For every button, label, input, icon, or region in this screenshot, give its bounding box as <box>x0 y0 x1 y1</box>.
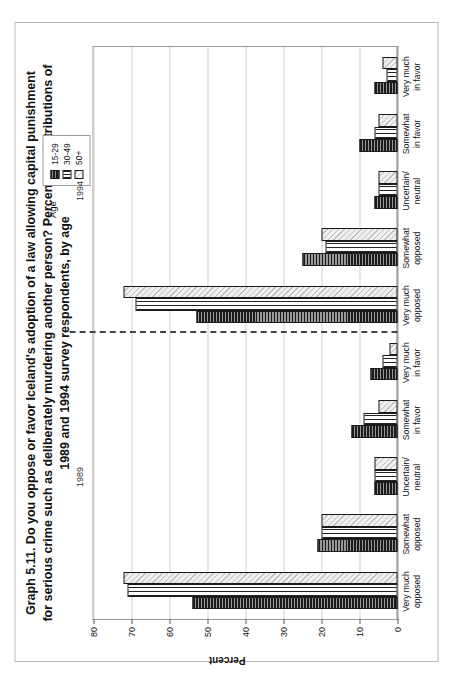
panel-year-label: 1989 <box>74 467 84 487</box>
bar-15-29 <box>196 311 397 324</box>
bar-30-49 <box>378 184 397 197</box>
bar-50plus <box>374 457 397 470</box>
bar-15-29 <box>370 368 397 381</box>
bar-group <box>93 457 397 495</box>
y-axis-tick <box>245 619 246 624</box>
x-axis-label: Uncertain/ neutral <box>400 162 421 219</box>
title-line-3: 1989 and 1994 survey respondents, by age <box>56 28 73 658</box>
bar-15-29 <box>374 196 397 209</box>
bar-30-49 <box>386 69 397 82</box>
y-axis-tick <box>397 619 398 624</box>
y-axis-tick <box>283 619 284 624</box>
bar-15-29 <box>374 82 397 95</box>
bar-50plus <box>378 114 397 127</box>
bar-50plus <box>321 228 397 241</box>
x-axis-label: Somewhat in favor <box>400 105 421 162</box>
legend-swatch-icon <box>62 170 71 179</box>
panel-year-label: 1994 <box>74 181 84 201</box>
bar-30-49 <box>135 298 397 311</box>
x-axis-label: Very much in favor <box>400 334 421 391</box>
bar-group <box>93 514 397 552</box>
bar-30-49 <box>321 527 397 540</box>
bar-50plus <box>378 171 397 184</box>
y-axis-tick <box>207 619 208 624</box>
bar-group <box>93 400 397 438</box>
plot-area: 01020304050607080 <box>92 46 398 620</box>
x-axis-label: Somewhat in favor <box>400 391 421 448</box>
legend-swatch-icon <box>74 170 83 179</box>
y-axis-tick-label: 50 <box>202 627 212 637</box>
bar-15-29 <box>374 482 397 495</box>
y-axis-tick-label: 20 <box>316 627 326 637</box>
bar-30-49 <box>325 241 397 254</box>
bar-50plus <box>378 400 397 413</box>
bar-30-49 <box>374 127 397 140</box>
figure: Graph 5.11. Do you oppose or favor Icela… <box>0 0 455 684</box>
title-line-2: for serious crime such as deliberately m… <box>39 28 56 658</box>
title-line-1: Graph 5.11. Do you oppose or favor Icela… <box>22 28 39 658</box>
bar-50plus <box>321 514 397 527</box>
y-axis-tick-label: 10 <box>354 627 364 637</box>
y-axis-tick-label: 70 <box>126 627 136 637</box>
y-axis-tick <box>131 619 132 624</box>
x-axis-label: Uncertain/ neutral <box>400 448 421 505</box>
bar-15-29 <box>351 425 397 438</box>
bar-group <box>93 171 397 209</box>
legend-title: Age <box>46 201 57 218</box>
y-axis-tick-label: 0 <box>392 627 402 632</box>
x-axis-label: Somewhat opposed <box>400 506 421 563</box>
legend: 15-2930-4950+ <box>42 135 90 186</box>
y-axis-tick-label: 40 <box>240 627 250 637</box>
panel-divider <box>69 331 397 333</box>
bar-50plus <box>123 286 397 299</box>
legend-label: 15-29 <box>49 143 59 165</box>
y-axis-tick-label: 80 <box>88 627 98 637</box>
bar-group <box>93 343 397 381</box>
bar-15-29 <box>359 139 397 152</box>
x-axis-label: Very much opposed <box>400 277 421 334</box>
legend-item: 30-49 <box>61 143 71 179</box>
y-axis-tick-label: 30 <box>278 627 288 637</box>
bar-30-49 <box>382 355 397 368</box>
bar-50plus <box>123 572 397 585</box>
legend-item: 50+ <box>73 143 83 179</box>
y-axis-title: Percent <box>208 655 245 666</box>
x-axis-label: Very much opposed <box>400 563 421 620</box>
bar-15-29 <box>317 540 397 553</box>
y-axis-tick <box>169 619 170 624</box>
bar-group <box>93 228 397 266</box>
bar-30-49 <box>127 584 397 597</box>
bar-group <box>93 57 397 95</box>
x-axis-category-labels: Very much opposedSomewhat opposedUncerta… <box>400 46 440 620</box>
y-axis-tick <box>359 619 360 624</box>
rotated-figure-wrapper: Graph 5.11. Do you oppose or favor Icela… <box>0 0 455 684</box>
x-axis-label: Somewhat opposed <box>400 220 421 277</box>
bar-group <box>93 572 397 610</box>
page-title: Graph 5.11. Do you oppose or favor Icela… <box>22 28 73 658</box>
chart-page: Graph 5.11. Do you oppose or favor Icela… <box>0 0 455 684</box>
bar-group <box>93 114 397 152</box>
bar-15-29 <box>302 254 397 267</box>
bar-30-49 <box>363 413 397 426</box>
legend-item: 15-29 <box>49 143 59 179</box>
y-axis-tick <box>93 619 94 624</box>
x-axis-label: Very much in favor <box>400 48 421 105</box>
bar-group <box>93 286 397 324</box>
bar-50plus <box>389 343 397 356</box>
bar-15-29 <box>192 597 397 610</box>
legend-swatch-icon <box>50 170 59 179</box>
y-axis-tick-label: 60 <box>164 627 174 637</box>
y-axis-tick <box>321 619 322 624</box>
bar-50plus <box>382 57 397 70</box>
bar-30-49 <box>374 470 397 483</box>
legend-label: 50+ <box>73 151 83 165</box>
legend-label: 30-49 <box>61 143 71 165</box>
